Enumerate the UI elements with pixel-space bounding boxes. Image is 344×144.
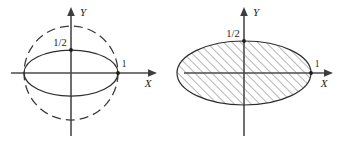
right-x-intercept-label: 1 xyxy=(315,59,320,69)
right-y-intercept-dot xyxy=(242,39,246,43)
left-x-axis-arrowhead xyxy=(148,69,157,77)
right-x-axis-label: X xyxy=(320,77,329,89)
right-y-intercept-label: 1/2 xyxy=(226,28,239,39)
left-y-axis-arrowhead xyxy=(67,7,75,16)
right-diagram-canvas: 1/2 1 Y X xyxy=(172,0,344,144)
right-x-intercept-dot xyxy=(309,71,313,75)
right-y-axis-arrowhead xyxy=(240,7,248,16)
left-y-intercept-label: 1/2 xyxy=(53,37,66,48)
left-y-intercept-dot xyxy=(69,48,73,52)
left-x-axis-label: X xyxy=(144,77,153,89)
left-y-axis-label: Y xyxy=(80,6,88,18)
right-y-axis-label: Y xyxy=(253,6,261,18)
figure-panel-left: 1/2 1 Y X xyxy=(0,0,172,144)
right-x-axis-arrowhead xyxy=(324,69,333,77)
left-x-intercept-label: 1 xyxy=(122,59,127,69)
right-hatched-ellipse-region xyxy=(177,41,311,105)
left-x-intercept-dot xyxy=(116,71,120,75)
figure-root: 1/2 1 Y X xyxy=(0,0,344,144)
left-diagram-canvas: 1/2 1 Y X xyxy=(0,0,172,144)
figure-panel-right: 1/2 1 Y X xyxy=(172,0,344,144)
left-x-axis xyxy=(11,69,157,77)
